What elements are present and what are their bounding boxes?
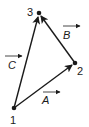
vector-a-label: A [41, 94, 49, 106]
vector-b-label: B [63, 29, 70, 41]
point-1-label: 1 [10, 114, 16, 126]
point-1-dot [12, 106, 17, 111]
point-3-label: 3 [27, 6, 33, 18]
vector-c-label: C [8, 59, 16, 71]
vector-c-line [14, 17, 38, 108]
point-2-label: 2 [77, 65, 83, 77]
point-3-dot [37, 11, 42, 16]
vector-diagram: 1 2 3 A B C [0, 0, 89, 127]
